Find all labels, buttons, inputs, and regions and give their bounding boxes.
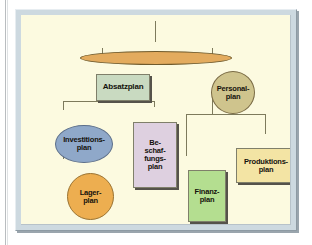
diagram-canvas: Absatzplan Personal- plan Investitions- …: [21, 15, 291, 225]
edge-absatzplan-to-beschaffungsplan: [154, 101, 155, 107]
node-finanzplan-label: Finanz- plan: [195, 188, 220, 204]
edge-personalplan-to-finanzplan: [186, 114, 187, 156]
page-edge-rule: [5, 0, 6, 245]
page-edge-rule-secondary: [7, 0, 8, 245]
node-root-ellipse[interactable]: [80, 51, 232, 65]
node-personalplan[interactable]: Personal- plan: [211, 71, 255, 114]
node-investitionsplan-label: Investitions- plan: [63, 136, 105, 152]
node-beschaffungsplan[interactable]: Be- schaf- fungs- plan: [133, 122, 177, 188]
node-produktionsplan-label: Produktions- plan: [244, 158, 288, 174]
node-personalplan-label: Personal- plan: [217, 85, 249, 101]
edge-personalplan-to-produktionsplan: [265, 114, 266, 134]
node-beschaffungsplan-label: Be- schaf- fungs- plan: [144, 139, 166, 171]
edge-absatzplan-to-investitionsplan: [63, 101, 64, 110]
node-lagerplan-label: Lager- plan: [80, 189, 102, 205]
node-finanzplan[interactable]: Finanz- plan: [188, 170, 226, 222]
node-produktionsplan[interactable]: Produktions- plan: [236, 148, 291, 183]
node-investitionsplan[interactable]: Investitions- plan: [55, 125, 113, 163]
node-absatzplan[interactable]: Absatzplan: [96, 74, 150, 101]
edge-stem-top-to-root: [155, 21, 156, 42]
node-absatzplan-label: Absatzplan: [103, 83, 144, 91]
figure-root: Absatzplan Personal- plan Investitions- …: [0, 0, 312, 245]
edge-absatzplan-split-bar: [63, 101, 154, 102]
node-lagerplan[interactable]: Lager- plan: [67, 173, 114, 220]
edge-personalplan-split-bar: [186, 114, 266, 115]
